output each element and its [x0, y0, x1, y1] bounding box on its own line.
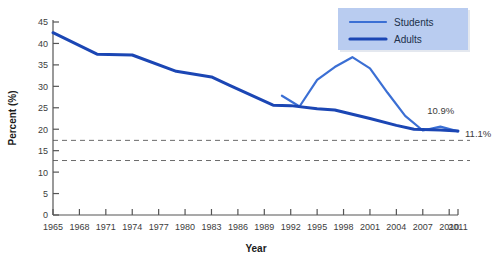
students-target-label: 10.9% — [427, 105, 454, 116]
y-tick-label: 15 — [38, 146, 48, 156]
y-tick-label: 0 — [43, 210, 48, 220]
y-tick-label: 40 — [38, 39, 48, 49]
x-tick-label: 1992 — [281, 222, 301, 232]
legend-label-adults: Adults — [394, 34, 422, 45]
adults-target-label: 11.1% — [465, 128, 492, 139]
x-tick-label: 1998 — [334, 222, 354, 232]
y-tick-label: 45 — [38, 17, 48, 27]
x-tick-label: 2004 — [386, 222, 406, 232]
legend: StudentsAdults — [338, 8, 470, 52]
x-tick-label: 2001 — [360, 222, 380, 232]
x-tick-label: 1989 — [254, 222, 274, 232]
x-tick-label: 1977 — [149, 222, 169, 232]
y-tick-label: 10 — [38, 168, 48, 178]
x-tick-label: 1974 — [122, 222, 142, 232]
y-tick-label: 35 — [38, 60, 48, 70]
y-tick-label: 25 — [38, 103, 48, 113]
legend-label-students: Students — [394, 17, 433, 28]
line-chart: 1965196819711974197719801983198619891992… — [0, 0, 500, 257]
x-tick-label: 2011 — [448, 222, 467, 232]
y-tick-label: 20 — [38, 125, 48, 135]
y-tick-label: 5 — [43, 189, 48, 199]
x-tick-label: 1971 — [96, 222, 116, 232]
chart-canvas: 1965196819711974197719801983198619891992… — [0, 0, 500, 257]
x-tick-label: 1983 — [201, 222, 221, 232]
x-tick-label: 1980 — [175, 222, 195, 232]
x-tick-label: 1968 — [69, 222, 89, 232]
x-axis-title: Year — [245, 243, 266, 254]
x-tick-label: 2007 — [413, 222, 433, 232]
y-axis-title: Percent (%) — [7, 90, 18, 145]
x-tick-label: 1986 — [228, 222, 248, 232]
x-tick-label: 1965 — [43, 222, 63, 232]
x-tick-label: 1995 — [307, 222, 327, 232]
y-tick-label: 30 — [38, 82, 48, 92]
